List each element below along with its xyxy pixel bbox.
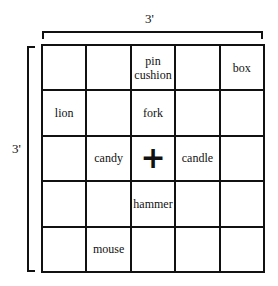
object-grid: pin cushion box lion fork candy + candle… — [41, 44, 265, 273]
grid-cell-hammer: hammer — [132, 182, 176, 227]
pin-cushion-label: pin cushion — [134, 54, 171, 82]
grid-cell-r4-c0 — [43, 228, 87, 273]
grid-cell-r0-c1 — [87, 46, 131, 91]
grid-cell-r1-c3 — [176, 91, 220, 136]
height-dimension-label: 3' — [12, 141, 21, 157]
grid-cell-pin-cushion: pin cushion — [132, 46, 176, 91]
grid-cell-r2-c0 — [43, 137, 87, 182]
grid-cell-r2-c4 — [221, 137, 265, 182]
grid-cell-fork: fork — [132, 91, 176, 136]
grid-cell-r3-c3 — [176, 182, 220, 227]
grid-cell-r0-c0 — [43, 46, 87, 91]
grid-cell-center: + — [132, 137, 176, 182]
grid-cell-r3-c4 — [221, 182, 265, 227]
grid-cell-r4-c4 — [221, 228, 265, 273]
grid-cell-box: box — [221, 46, 265, 91]
grid-cell-candle: candle — [176, 137, 220, 182]
grid-cell-lion: lion — [43, 91, 87, 136]
grid-cell-r3-c0 — [43, 182, 87, 227]
grid-cell-r3-c1 — [87, 182, 131, 227]
grid-cell-r1-c1 — [87, 91, 131, 136]
grid-cell-mouse: mouse — [87, 228, 131, 273]
grid-cell-candy: candy — [87, 137, 131, 182]
grid-cell-r0-c3 — [176, 46, 220, 91]
height-dimension-bracket — [27, 46, 35, 272]
grid-cell-r4-c3 — [176, 228, 220, 273]
width-dimension-label: 3' — [145, 11, 154, 27]
grid-cell-r4-c2 — [132, 228, 176, 273]
grid-cell-r1-c4 — [221, 91, 265, 136]
center-cross-icon: + — [140, 143, 165, 173]
width-dimension-bracket — [42, 31, 263, 39]
